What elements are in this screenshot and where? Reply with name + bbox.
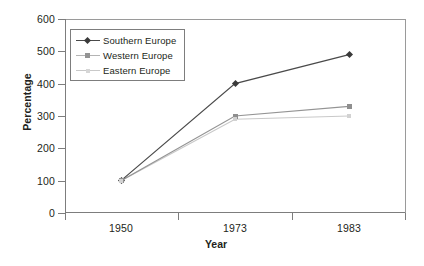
y-tick-600	[58, 19, 66, 20]
y-tick-300	[58, 116, 66, 117]
x-tick-end	[405, 213, 406, 220]
data-point-eastern-europe-1973	[233, 117, 237, 121]
legend-key-western-europe	[76, 50, 100, 62]
legend-label-western-europe: Western Europe	[103, 50, 173, 61]
y-tick-label-500: 500	[37, 45, 55, 57]
data-point-eastern-europe-1983	[347, 114, 351, 118]
plot-border-right	[405, 19, 406, 214]
y-tick-label-300: 300	[37, 110, 55, 122]
data-point-eastern-europe-1950	[119, 179, 123, 183]
line-chart: 600 500 400 300 200 100 0 Percentage 195…	[0, 0, 424, 266]
x-tick-label-1983: 1983	[314, 222, 384, 234]
legend-key-southern-europe	[76, 35, 100, 47]
legend-item-eastern-europe[interactable]: Eastern Europe	[71, 63, 184, 78]
y-tick-label-200: 200	[37, 142, 55, 154]
y-tick-label-400: 400	[37, 78, 55, 90]
data-point-western-europe-1983	[347, 104, 352, 109]
y-tick-500	[58, 51, 66, 52]
y-tick-label-100: 100	[37, 175, 55, 187]
legend-key-eastern-europe	[76, 65, 100, 77]
y-tick-label-600: 600	[37, 13, 55, 25]
diamond-marker-icon	[84, 36, 91, 43]
legend-item-western-europe[interactable]: Western Europe	[71, 48, 184, 63]
y-tick-label-0: 0	[49, 207, 55, 219]
legend-item-southern-europe[interactable]: Southern Europe	[71, 33, 184, 48]
legend-label-southern-europe: Southern Europe	[103, 35, 176, 46]
small-square-marker-icon	[86, 69, 90, 73]
y-tick-400	[58, 84, 66, 85]
y-tick-200	[58, 148, 66, 149]
square-marker-icon	[85, 53, 90, 58]
plot-border-top	[65, 19, 406, 20]
y-tick-100	[58, 181, 66, 182]
x-tick-start	[65, 213, 66, 220]
x-axis-title: Year	[180, 238, 252, 250]
legend-label-eastern-europe: Eastern Europe	[103, 65, 170, 76]
x-tick-label-1950: 1950	[86, 222, 156, 234]
x-tick-label-1973: 1973	[200, 222, 270, 234]
x-tick-1973-boundary	[178, 213, 179, 220]
legend: Southern Europe Western Europe Eastern E…	[70, 29, 185, 81]
y-axis-title: Percentage	[21, 57, 33, 147]
x-tick-1983-boundary	[292, 213, 293, 220]
